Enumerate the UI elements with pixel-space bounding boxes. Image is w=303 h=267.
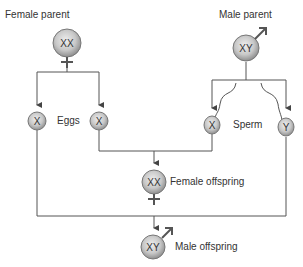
inheritance-diagram: XX XY X X X Y	[0, 0, 303, 267]
female-symbol-icon	[148, 194, 160, 205]
svg-text:Y: Y	[283, 122, 290, 133]
male-offspring-node: XY	[141, 228, 172, 259]
sperm-label: Sperm	[233, 119, 262, 130]
male-parent-label: Male parent	[219, 9, 272, 20]
female-parent-label: Female parent	[5, 9, 69, 20]
sperm-x: X	[204, 116, 220, 134]
female-parent-node: XX	[53, 29, 81, 68]
svg-text:X: X	[209, 120, 216, 131]
sperm-y: Y	[278, 118, 294, 136]
female-parent-chromosomes: XX	[60, 38, 74, 49]
eggs-label: Eggs	[57, 115, 80, 126]
male-parent-chromosomes: XY	[239, 43, 253, 54]
diagram-graphics: XX XY X X X Y	[0, 0, 303, 267]
female-offspring-node: XX	[142, 170, 166, 205]
egg-2: X	[90, 112, 108, 130]
female-symbol-icon	[61, 57, 73, 68]
sperm-tails	[215, 83, 282, 120]
female-offspring-label: Female offspring	[170, 176, 244, 187]
male-symbol-icon	[162, 228, 172, 238]
male-symbol-icon	[255, 28, 266, 39]
svg-text:X: X	[34, 116, 41, 127]
svg-text:XY: XY	[146, 242, 160, 253]
svg-text:X: X	[96, 116, 103, 127]
svg-text:XX: XX	[147, 177, 161, 188]
egg-1: X	[28, 112, 46, 130]
male-parent-node: XY	[233, 28, 266, 61]
male-offspring-label: Male offspring	[175, 241, 238, 252]
connector-lines	[37, 62, 286, 228]
